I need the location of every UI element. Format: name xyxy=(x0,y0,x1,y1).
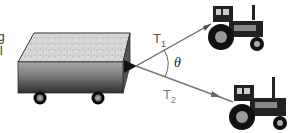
tractor-bottom xyxy=(229,77,287,130)
label-t2: T2 xyxy=(163,88,176,105)
label-theta: θ xyxy=(174,55,181,71)
label-t2-sub: 2 xyxy=(171,95,176,105)
wagon xyxy=(18,33,137,105)
label-t1-main: T xyxy=(153,31,161,46)
wagon-front xyxy=(18,62,123,93)
edge-text-fragment-2: l xyxy=(0,44,3,58)
label-t1: T1 xyxy=(153,32,166,49)
angle-arc xyxy=(164,50,168,77)
arrowhead-t1 xyxy=(203,24,211,31)
wagon-tractor-diagram xyxy=(0,0,298,133)
edge-text-fragment-1: g xyxy=(0,30,5,44)
arrowhead-t2 xyxy=(211,91,221,97)
label-t1-sub: 1 xyxy=(161,39,166,49)
wagon-wheel-right xyxy=(92,92,105,105)
wagon-hitch xyxy=(124,60,137,73)
label-t2-main: T xyxy=(163,87,171,102)
wagon-top xyxy=(18,33,130,62)
wagon-wheel-left xyxy=(34,92,47,105)
tractor-top xyxy=(208,5,264,51)
